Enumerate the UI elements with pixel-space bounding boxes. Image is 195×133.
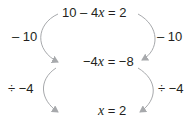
arrow-right-1 xyxy=(138,14,155,60)
eq1-pre: 10 – 4 xyxy=(62,5,98,20)
eq2-pre: −4 xyxy=(83,54,98,69)
arrow-left-2 xyxy=(43,68,58,112)
equation-line-3: x = 2 xyxy=(98,104,126,118)
arrow-right-2 xyxy=(138,68,153,112)
operation-left-1: – 10 xyxy=(12,30,37,43)
arrow-left-1 xyxy=(41,14,58,62)
eq1-post: = 2 xyxy=(104,5,126,20)
operation-right-2: ÷ −4 xyxy=(158,82,184,95)
operation-left-2: ÷ −4 xyxy=(8,82,34,95)
eq2-post: = −8 xyxy=(104,54,134,69)
equation-line-2: −4x = −8 xyxy=(83,55,134,69)
eq3-post: = 2 xyxy=(104,103,126,118)
operation-right-1: – 10 xyxy=(157,30,182,43)
equation-line-1: 10 – 4x = 2 xyxy=(62,6,126,20)
